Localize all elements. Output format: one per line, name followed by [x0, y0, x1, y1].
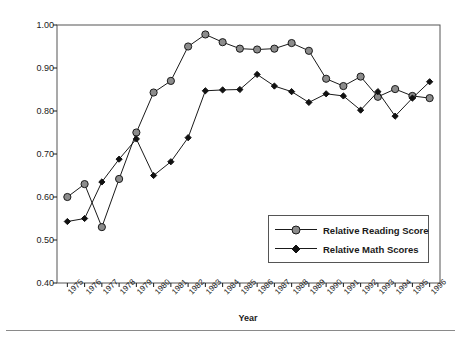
legend-item-math: Relative Math Scores — [275, 240, 419, 258]
legend-label-reading: Relative Reading Score — [323, 225, 429, 236]
chart-figure: Performance Relative to NYC 0.400.500.60… — [0, 0, 461, 338]
bottom-divider — [6, 330, 455, 331]
legend-marker-circle-icon — [275, 223, 317, 237]
x-axis-label: Year — [56, 313, 440, 323]
chart-legend: Relative Reading Score Relative Math Sco… — [268, 215, 429, 263]
legend-label-math: Relative Math Scores — [323, 244, 419, 255]
legend-marker-diamond-icon — [275, 242, 317, 256]
legend-item-reading: Relative Reading Score — [275, 221, 429, 239]
